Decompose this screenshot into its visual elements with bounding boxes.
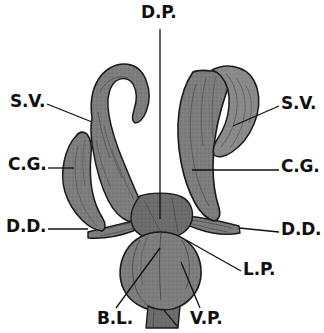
label-lateral-penis: L.P. xyxy=(243,261,275,278)
anatomical-figure: D.P. S.V. S.V. C.G. C.G. D.D. D.D. L.P. … xyxy=(0,0,324,333)
label-deferent-duct-left: D.D. xyxy=(6,218,46,235)
label-cement-gland-right: C.G. xyxy=(281,158,320,175)
label-ventral-penis: V.P. xyxy=(190,310,222,327)
bursa-body xyxy=(120,232,201,311)
label-seminal-vesicle-right: S.V. xyxy=(281,95,316,112)
label-cement-gland-left: C.G. xyxy=(8,156,47,173)
anatomy-drawing xyxy=(0,0,324,333)
label-deferent-duct-right: D.D. xyxy=(281,221,321,238)
stalk-body xyxy=(146,306,180,328)
label-seminal-vesicle-left: S.V. xyxy=(10,93,45,110)
label-dorsal-penis: D.P. xyxy=(141,4,177,21)
label-bursa-lobe: B.L. xyxy=(97,310,133,327)
